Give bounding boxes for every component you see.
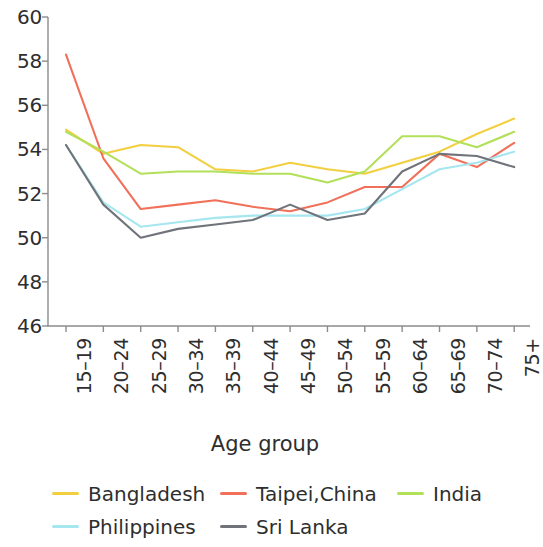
- y-axis-tick-label: 54: [4, 139, 42, 159]
- series-line-bangladesh: [66, 119, 514, 174]
- legend-label: Sri Lanka: [256, 517, 348, 537]
- legend-item-bangladesh[interactable]: Bangladesh: [52, 477, 205, 510]
- chart-legend: BangladeshTaipei,ChinaIndiaPhilippinesSr…: [52, 477, 522, 543]
- x-axis-tick-label: 70–74: [486, 338, 505, 394]
- x-axis-tick-label: 35–39: [224, 338, 243, 394]
- plot-area: [0, 0, 530, 340]
- x-axis-tick-label: 55–59: [374, 338, 393, 394]
- x-axis-tick-label: 65–69: [449, 338, 468, 394]
- y-axis-tick-label: 56: [4, 95, 42, 115]
- y-axis-tick-label: 58: [4, 51, 42, 71]
- x-axis-tick-label: 45–49: [299, 338, 318, 394]
- x-axis-tick-label: 75+: [523, 338, 542, 377]
- legend-swatch-icon: [397, 492, 424, 495]
- y-axis-tick-label: 52: [4, 184, 42, 204]
- y-axis-tick-label: 48: [4, 272, 42, 292]
- legend-label: Bangladesh: [88, 484, 205, 504]
- legend-item-sri-lanka[interactable]: Sri Lanka: [220, 510, 348, 543]
- x-axis-tick-label: 50–54: [336, 338, 355, 394]
- x-axis-tick-label: 60–64: [411, 338, 430, 394]
- legend-label: India: [433, 484, 482, 504]
- legend-label: Philippines: [88, 517, 196, 537]
- legend-swatch-icon: [220, 525, 247, 528]
- legend-swatch-icon: [52, 525, 79, 528]
- x-axis-tick-label: 20–24: [112, 338, 131, 394]
- x-axis-tick-labels: 15–1920–2425–2930–3435–3940–4445–4950–54…: [0, 330, 530, 425]
- legend-swatch-icon: [220, 492, 247, 495]
- plot-svg: [0, 0, 530, 340]
- x-axis-tick-label: 40–44: [262, 338, 281, 394]
- legend-swatch-icon: [52, 492, 79, 495]
- legend-item-philippines[interactable]: Philippines: [52, 510, 196, 543]
- axis-spine: [48, 17, 530, 326]
- x-axis-title: Age group: [0, 432, 530, 456]
- y-axis-tick-label: 50: [4, 228, 42, 248]
- y-axis-tick-labels: 4648505254565860: [0, 0, 42, 340]
- x-axis-tick-label: 15–19: [75, 338, 94, 394]
- series-line-taipei-china: [66, 55, 514, 212]
- legend-label: Taipei,China: [256, 484, 377, 504]
- x-axis-tick-label: 30–34: [187, 338, 206, 394]
- series-line-sri-lanka: [66, 145, 514, 238]
- x-axis-tick-label: 25–29: [150, 338, 169, 394]
- legend-item-taipei-china[interactable]: Taipei,China: [220, 477, 377, 510]
- y-axis-tick-label: 60: [4, 7, 42, 27]
- legend-item-india[interactable]: India: [397, 477, 482, 510]
